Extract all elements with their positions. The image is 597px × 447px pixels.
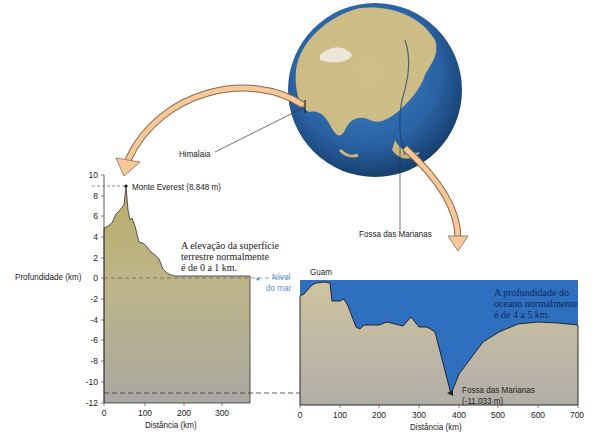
globe <box>288 3 462 177</box>
guam-label: Guam <box>310 266 332 277</box>
right-x-axis-label: Distância (km) <box>410 421 462 432</box>
ocean-depth-note: A profundidade do oceano normalmente é d… <box>494 287 578 320</box>
elevation-note: A elevação da superfície terrestre norma… <box>181 240 279 273</box>
y-axis-label: Profundidade (km) <box>15 271 81 282</box>
fossa-marianas-label: Fossa das Marianas <box>359 228 432 239</box>
sea-level-label: Nível do mar <box>266 271 291 293</box>
everest-annotation: Monte Everest (8.848 m) <box>132 181 221 192</box>
arrow-to-left-chart <box>116 88 303 176</box>
left-x-axis <box>104 403 222 406</box>
himalaia-leader-line <box>215 107 305 152</box>
himalaia-label: Himalaia <box>179 148 210 159</box>
trench-annotation: Fossa das Marianas (-11.033 m) <box>462 384 535 406</box>
left-x-axis-label: Distância (km) <box>145 419 197 430</box>
